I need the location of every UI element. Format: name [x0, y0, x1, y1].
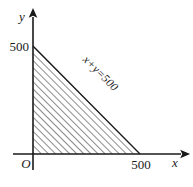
y-axis-label: y — [17, 9, 25, 24]
x-axis-label: x — [171, 155, 178, 170]
x-axis-tick-label-500: 500 — [131, 157, 151, 172]
coordinate-plane-figure: y x 500 500 O x+y=500 — [0, 0, 193, 187]
y-axis-tick-label-500: 500 — [10, 39, 30, 54]
origin-label: O — [21, 156, 31, 171]
plot-svg: y x 500 500 O x+y=500 — [0, 0, 193, 187]
constraint-line-annotation: x+y=500 — [79, 53, 120, 94]
